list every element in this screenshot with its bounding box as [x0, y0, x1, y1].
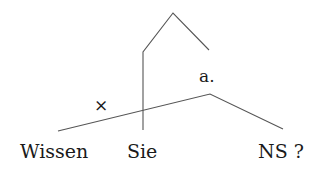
diagram-canvas: a. × Wissen Sie NS ? — [0, 0, 328, 171]
leaf-wissen: Wissen — [20, 140, 88, 162]
tree-lines — [58, 13, 283, 131]
leaf-sie: Sie — [127, 140, 157, 162]
tree-diagram: a. × Wissen Sie NS ? — [0, 0, 328, 171]
cross-mark-icon: × — [94, 95, 108, 115]
lower-branch — [58, 94, 283, 131]
leaf-ns: NS ? — [258, 140, 304, 162]
node-label-a: a. — [199, 66, 215, 86]
